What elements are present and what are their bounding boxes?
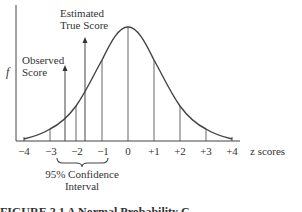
x-tick-labels: −4 −3 −2 −1 0 +1 +2 +3 +4	[18, 145, 238, 157]
svg-text:−3: −3	[45, 145, 57, 157]
figure-caption: FIGURE 2.1 A Normal Probability C	[0, 205, 190, 212]
confidence-interval-brace	[57, 158, 108, 167]
observed-score-label: Observed	[22, 54, 65, 66]
svg-text:−1: −1	[97, 145, 109, 157]
svg-text:+2: +2	[174, 145, 186, 157]
svg-text:0: 0	[125, 145, 131, 157]
z-gridlines	[50, 27, 206, 141]
estimated-true-score-label-2: True Score	[60, 19, 108, 31]
observed-score-label-2: Score	[22, 66, 47, 78]
svg-text:−2: −2	[71, 145, 83, 157]
svg-text:+3: +3	[200, 145, 212, 157]
x-axis-label: z scores	[250, 145, 285, 157]
normal-curve-chart: f Observed Score Estimated True Score −4…	[0, 0, 302, 212]
svg-text:+4: +4	[226, 145, 238, 157]
confidence-interval-label-2: Interval	[65, 180, 99, 192]
svg-text:−4: −4	[18, 145, 30, 157]
confidence-interval-label: 95% Confidence	[45, 168, 119, 180]
estimated-true-score-label: Estimated	[60, 7, 104, 19]
y-axis-label: f	[6, 65, 11, 79]
svg-text:+1: +1	[148, 145, 160, 157]
observed-score-arrow	[63, 65, 68, 141]
